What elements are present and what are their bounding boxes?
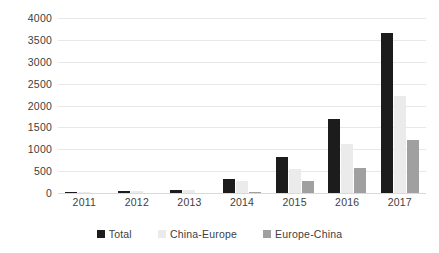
bar-europe-china-2014[interactable] [249,192,261,193]
legend-item-europe-china[interactable]: Europe-China [263,228,342,240]
bar-china-europe-2014[interactable] [236,181,248,193]
bar-group-2011 [58,18,111,193]
bars-layer [58,18,426,193]
y-tick-label: 2000 [28,100,52,112]
bar-china-europe-2013[interactable] [183,190,195,194]
bar-total-2012[interactable] [118,191,130,193]
bar-china-europe-2017[interactable] [394,96,406,193]
legend-label: Total [109,228,132,240]
chart-legend: TotalChina-EuropeEurope-China [0,228,439,240]
gridline-0 [58,193,426,194]
x-tick-label-2015: 2015 [268,196,321,208]
bar-total-2014[interactable] [223,179,235,193]
bar-europe-china-2017[interactable] [407,140,419,193]
x-tick-label-2013: 2013 [163,196,216,208]
bar-china-europe-2015[interactable] [289,169,301,193]
y-tick-label: 500 [34,165,52,177]
bar-total-2017[interactable] [381,33,393,193]
y-tick-label: 2500 [28,78,52,90]
y-tick-label: 4000 [28,12,52,24]
bar-china-europe-2016[interactable] [341,144,353,193]
bar-total-2015[interactable] [276,157,288,193]
bar-china-europe-2011[interactable] [78,192,90,193]
bar-group-2012 [111,18,164,193]
x-tick-label-2012: 2012 [111,196,164,208]
bar-total-2011[interactable] [65,192,77,193]
legend-swatch-icon [263,230,271,238]
x-tick-label-2011: 2011 [58,196,111,208]
bar-europe-china-2016[interactable] [354,168,366,193]
bar-europe-china-2015[interactable] [302,181,314,193]
bar-total-2016[interactable] [328,119,340,193]
y-tick-label: 0 [46,187,52,199]
bar-china-europe-2012[interactable] [131,191,143,193]
legend-item-total[interactable]: Total [97,228,132,240]
bar-group-2013 [163,18,216,193]
x-tick-label-2014: 2014 [216,196,269,208]
legend-label: China-Europe [170,228,237,240]
y-tick-label: 1000 [28,143,52,155]
y-tick-label: 1500 [28,121,52,133]
y-tick-label: 3000 [28,56,52,68]
y-axis: 05001000150020002500300035004000 [0,18,52,193]
bar-group-2014 [216,18,269,193]
y-tick-label: 3500 [28,34,52,46]
x-tick-label-2016: 2016 [321,196,374,208]
bar-group-2015 [268,18,321,193]
bar-total-2013[interactable] [170,190,182,194]
bar-group-2016 [321,18,374,193]
legend-label: Europe-China [275,228,342,240]
x-axis: 2011201220132014201520162017 [58,196,426,208]
legend-swatch-icon [97,230,105,238]
x-tick-label-2017: 2017 [373,196,426,208]
legend-item-china-europe[interactable]: China-Europe [158,228,237,240]
bar-group-2017 [373,18,426,193]
legend-swatch-icon [158,230,166,238]
bar-chart: 05001000150020002500300035004000 2011201… [0,0,439,253]
